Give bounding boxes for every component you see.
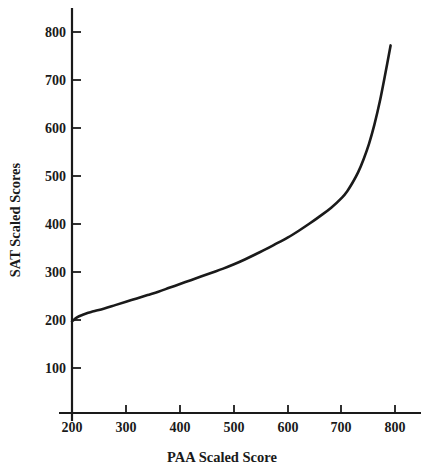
chart-background [0, 0, 427, 473]
y-tick-label-800: 800 [45, 25, 66, 40]
x-tick-label-800: 800 [385, 420, 406, 435]
y-tick-label-400: 400 [45, 217, 66, 232]
x-axis-title: PAA Scaled Score [167, 449, 277, 465]
x-tick-label-500: 500 [224, 420, 245, 435]
x-tick-label-300: 300 [116, 420, 137, 435]
y-tick-label-500: 500 [45, 169, 66, 184]
y-tick-label-600: 600 [45, 121, 66, 136]
x-tick-label-700: 700 [331, 420, 352, 435]
y-tick-label-200: 200 [45, 313, 66, 328]
x-tick-label-600: 600 [278, 420, 299, 435]
y-tick-label-300: 300 [45, 265, 66, 280]
concordance-line-chart: 800 700 600 500 400 300 200 100 200 300 … [0, 0, 427, 473]
x-tick-label-200: 200 [62, 420, 83, 435]
x-tick-label-400: 400 [170, 420, 191, 435]
chart-container: 800 700 600 500 400 300 200 100 200 300 … [0, 0, 427, 473]
y-tick-label-700: 700 [45, 73, 66, 88]
y-tick-label-100: 100 [45, 361, 66, 376]
y-axis-title: SAT Scaled Scores [7, 162, 23, 277]
